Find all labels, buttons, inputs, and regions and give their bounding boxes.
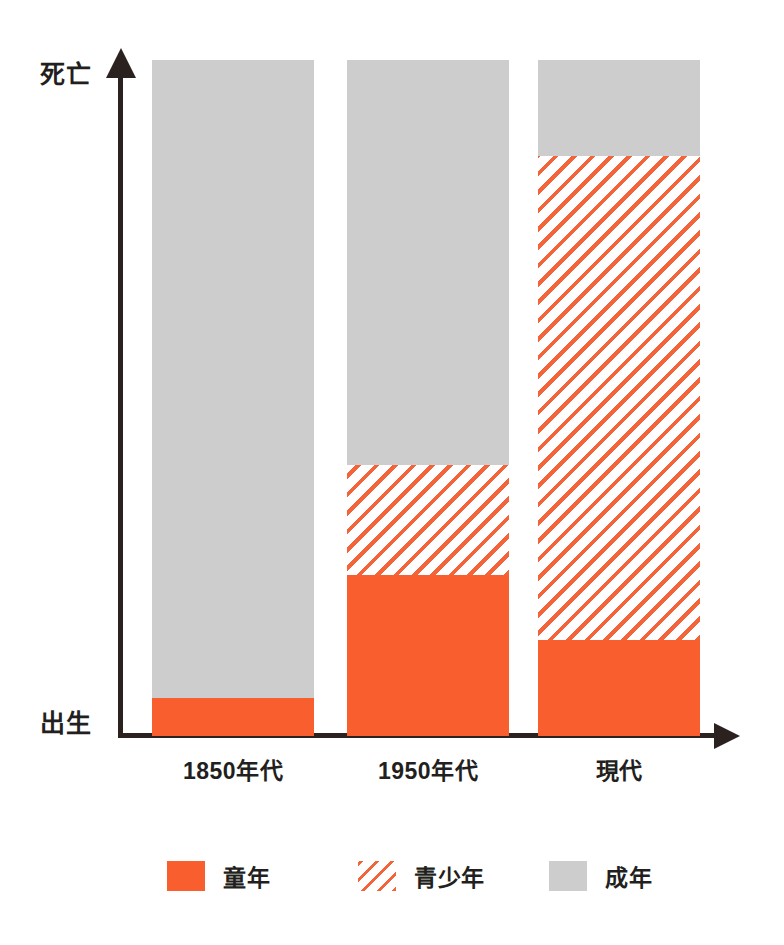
- bar-segment-adolescence: [347, 465, 509, 575]
- bar-segment-adulthood: [152, 60, 314, 698]
- stacked-bar-chart: 死亡 出生 1850年代 1950年代 現代 童年 青少年: [0, 0, 784, 945]
- bar-segment-childhood: [152, 698, 314, 736]
- chart-legend: 童年 青少年 成年: [0, 856, 784, 900]
- bar-present-day: [538, 60, 700, 736]
- bar-segment-childhood: [347, 575, 509, 736]
- bar-segment-adolescence: [538, 156, 700, 640]
- x-tick-label-1: 1950年代: [328, 752, 528, 786]
- legend-item-adolescence: 青少年: [358, 856, 485, 896]
- x-tick-label-2: 現代: [519, 752, 719, 786]
- bar-1950s: [347, 60, 509, 736]
- legend-swatch-adolescence-icon: [358, 861, 396, 891]
- bar-segment-adulthood: [538, 60, 700, 156]
- legend-label-childhood: 童年: [223, 859, 270, 893]
- legend-swatch-adulthood-icon: [549, 861, 587, 891]
- legend-swatch-childhood-icon: [167, 861, 205, 891]
- x-tick-label-0: 1850年代: [133, 752, 333, 786]
- bar-segment-childhood: [538, 640, 700, 736]
- bar-1850s: [152, 60, 314, 736]
- legend-item-childhood: 童年: [167, 856, 270, 896]
- legend-label-adolescence: 青少年: [414, 859, 485, 893]
- bar-segment-adulthood: [347, 60, 509, 465]
- legend-label-adulthood: 成年: [605, 859, 652, 893]
- legend-item-adulthood: 成年: [549, 856, 652, 896]
- bars-layer: [0, 0, 784, 945]
